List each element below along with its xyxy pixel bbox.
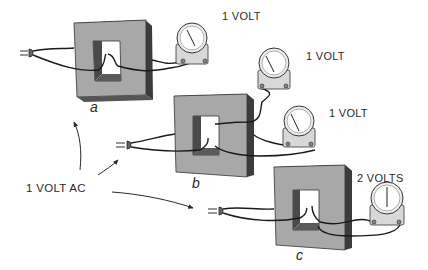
- meter-reading-b-upper: 1 VOLT: [306, 50, 345, 62]
- voltmeter-b-upper: [258, 48, 290, 89]
- diagram-canvas: 1 VOLT 1 VOLT 1 VOLT 2 VOLTS a b c 1 VOL…: [0, 0, 428, 270]
- setup-label-b: b: [192, 175, 200, 191]
- transformer-core-b: [174, 94, 254, 177]
- voltmeter-c: [370, 182, 404, 225]
- meter-reading-b-lower: 1 VOLT: [329, 107, 368, 119]
- transformer-core-c: [274, 165, 352, 250]
- meter-reading-c: 2 VOLTS: [357, 172, 404, 184]
- setup-label-c: c: [296, 247, 303, 263]
- transformer-core-a: [74, 20, 153, 102]
- setup-label-a: a: [90, 99, 98, 115]
- meter-reading-a: 1 VOLT: [222, 10, 261, 22]
- plug-b: [116, 141, 131, 149]
- voltmeter-b-lower: [283, 106, 315, 147]
- plug-c: [208, 207, 223, 215]
- source-label: 1 VOLT AC: [26, 182, 86, 194]
- plug-a: [20, 49, 33, 57]
- voltmeter-a: [176, 23, 208, 64]
- diagram-graphics: [0, 0, 428, 270]
